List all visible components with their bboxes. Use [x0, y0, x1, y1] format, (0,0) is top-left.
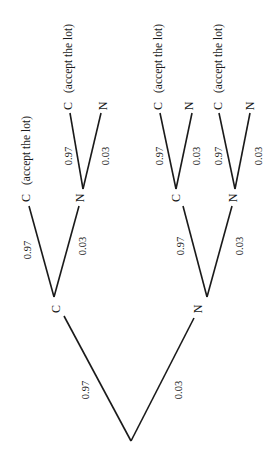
- node-n-an: N: [96, 101, 110, 110]
- edge-c-n: [54, 206, 79, 297]
- prob-cn-n: 0.03: [100, 147, 111, 165]
- node-n-level1: N: [191, 304, 205, 313]
- prob-root-n: 0.03: [173, 381, 184, 399]
- node-c-accept-an: C: [61, 102, 75, 110]
- node-n-bc: N: [182, 101, 196, 110]
- node-c-accept-a: C: [19, 194, 33, 202]
- edge-n-c: [183, 206, 207, 297]
- edge-n-n: [207, 206, 232, 297]
- probability-tree: C N 0.97 0.03 C (accept the lot) 0.97 N …: [0, 0, 280, 458]
- prob-c-n: 0.03: [77, 237, 88, 255]
- accept-note-bn: (accept the lot): [212, 24, 225, 93]
- prob-nn-c: 0.97: [213, 147, 224, 165]
- node-c-b: C: [169, 194, 183, 202]
- edge-nn-n: [235, 113, 250, 189]
- node-c-accept-bn: C: [211, 102, 225, 110]
- node-c-accept-bc: C: [151, 102, 165, 110]
- node-n-bn: N: [243, 101, 257, 110]
- prob-n-n: 0.03: [234, 237, 245, 255]
- node-n-b: N: [226, 193, 240, 202]
- node-n-a: N: [73, 193, 87, 202]
- prob-nn-n: 0.03: [253, 147, 264, 165]
- prob-n-c: 0.97: [175, 237, 186, 255]
- edge-root-c: [64, 316, 131, 441]
- prob-root-c: 0.97: [80, 381, 91, 399]
- prob-nc-n: 0.03: [191, 147, 202, 165]
- edge-root-n: [131, 318, 194, 441]
- accept-note-an: (accept the lot): [62, 24, 75, 93]
- node-c-level1: C: [49, 305, 63, 313]
- prob-c-c: 0.97: [22, 241, 33, 259]
- prob-nc-c: 0.97: [154, 147, 165, 165]
- accept-note-a: (accept the lot): [20, 116, 33, 185]
- edge-cn-n: [83, 113, 101, 189]
- prob-cn-c: 0.97: [63, 147, 74, 165]
- edge-nc-n: [176, 113, 192, 189]
- accept-note-bc: (accept the lot): [152, 24, 165, 93]
